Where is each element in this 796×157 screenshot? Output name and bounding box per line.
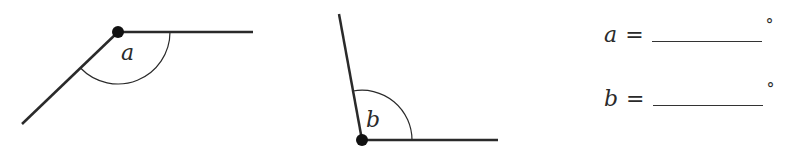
answer-b-equals: = <box>626 86 644 111</box>
angle-b: b <box>339 14 498 146</box>
answer-a-blank[interactable] <box>652 23 762 42</box>
angle-a: a <box>22 26 253 124</box>
angle-a-vertex-dot <box>112 26 124 38</box>
degree-symbol-a: ° <box>766 15 774 34</box>
answer-row-a: a=° <box>604 22 774 47</box>
answer-b-variable: b <box>604 86 618 111</box>
answer-a-equals: = <box>625 22 643 47</box>
angle-a-label: a <box>121 40 134 65</box>
answer-b-blank[interactable] <box>653 87 763 106</box>
angle-b-ray-up <box>339 14 362 140</box>
angle-b-label: b <box>366 107 380 132</box>
answer-a-variable: a <box>604 22 617 47</box>
angle-b-vertex-dot <box>356 134 368 146</box>
degree-symbol-b: ° <box>767 79 775 98</box>
answer-panel: a=° b=° <box>604 0 794 157</box>
angle-a-ray-lower-left <box>22 32 118 124</box>
answer-row-b: b=° <box>604 86 775 111</box>
